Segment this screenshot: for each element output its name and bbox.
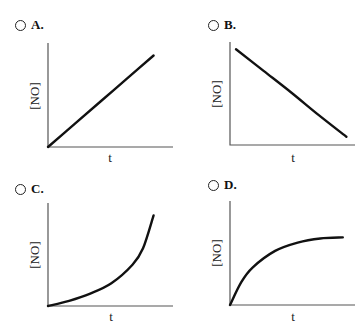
- graphs-canvas: [NO] t [NO] t [NO] t [NO] t: [0, 0, 363, 330]
- graph-a-ylabel: [NO]: [27, 82, 42, 109]
- graph-b-xlabel: t: [291, 150, 295, 165]
- graph-a-xlabel: t: [108, 150, 112, 165]
- graph-d-xlabel: t: [291, 309, 295, 324]
- graph-d-curve: [230, 237, 343, 305]
- graph-b-curve: [236, 49, 346, 137]
- graph-d: [NO] t: [209, 201, 355, 324]
- graph-c-ylabel: [NO]: [27, 241, 42, 268]
- graph-c-curve: [48, 215, 154, 306]
- graph-d-axes: [230, 201, 355, 305]
- graph-a: [NO] t: [27, 43, 173, 165]
- graph-c: [NO] t: [27, 203, 173, 324]
- graph-b-ylabel: [NO]: [209, 80, 224, 107]
- graph-c-axes: [48, 203, 173, 306]
- graph-b: [NO] t: [209, 42, 355, 165]
- graph-c-xlabel: t: [109, 309, 113, 324]
- graph-d-ylabel: [NO]: [209, 239, 224, 266]
- graph-a-curve: [48, 55, 154, 147]
